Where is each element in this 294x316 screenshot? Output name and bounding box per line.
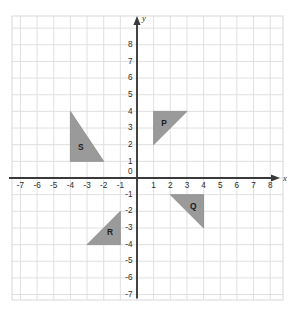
x-tick-label: -4 bbox=[67, 181, 75, 190]
x-tick-label: 2 bbox=[168, 181, 173, 190]
shape-label-q: Q bbox=[190, 201, 197, 211]
y-tick-label: 3 bbox=[128, 123, 133, 132]
coordinate-plane-figure: -7-6-5-4-3-2-112345678 -7-6-5-4-3-2-1123… bbox=[0, 0, 294, 316]
x-tick-label: 6 bbox=[235, 181, 240, 190]
y-tick-label: 2 bbox=[128, 140, 133, 149]
x-tick-label: -3 bbox=[83, 181, 91, 190]
grid-frame-border bbox=[12, 16, 283, 300]
y-tick-label: -2 bbox=[125, 206, 133, 215]
x-axis-label: x bbox=[282, 173, 287, 183]
y-axis-arrowhead-icon bbox=[133, 16, 140, 25]
y-tick-label: 8 bbox=[128, 40, 133, 49]
y-tick-label: -1 bbox=[125, 190, 133, 199]
origin-label: 0 bbox=[128, 167, 133, 176]
y-tick-label: -3 bbox=[125, 223, 133, 232]
x-tick-label: 7 bbox=[251, 181, 256, 190]
shape-label-s: S bbox=[78, 142, 84, 152]
y-tick-label: -7 bbox=[125, 290, 133, 299]
y-axis-label: y bbox=[141, 13, 146, 23]
shape-label-r: R bbox=[107, 227, 113, 237]
y-tick-label: 1 bbox=[128, 157, 133, 166]
y-tick-label: 5 bbox=[128, 90, 133, 99]
x-axis-tick-labels: -7-6-5-4-3-2-112345678 bbox=[17, 181, 273, 190]
x-tick-label: -7 bbox=[17, 181, 25, 190]
axes-group bbox=[9, 16, 280, 299]
x-tick-label: 8 bbox=[268, 181, 273, 190]
x-tick-label: 4 bbox=[201, 181, 206, 190]
x-tick-label: -1 bbox=[117, 181, 125, 190]
x-tick-label: -2 bbox=[100, 181, 108, 190]
coordinate-plane-svg: -7-6-5-4-3-2-112345678 -7-6-5-4-3-2-1123… bbox=[0, 0, 294, 316]
y-tick-label: -6 bbox=[125, 273, 133, 282]
x-tick-label: 3 bbox=[185, 181, 190, 190]
grid-major-lines bbox=[12, 16, 283, 300]
y-tick-label: -4 bbox=[125, 240, 133, 249]
shape-label-p: P bbox=[161, 118, 167, 128]
x-tick-label: 1 bbox=[151, 181, 156, 190]
x-tick-label: -5 bbox=[50, 181, 58, 190]
y-tick-label: 4 bbox=[128, 107, 133, 116]
y-tick-label: -5 bbox=[125, 256, 133, 265]
y-axis-tick-labels: -7-6-5-4-3-2-1123456780 bbox=[125, 40, 133, 299]
y-tick-label: 7 bbox=[128, 57, 133, 66]
x-tick-label: 5 bbox=[218, 181, 223, 190]
x-tick-label: -6 bbox=[33, 181, 41, 190]
y-tick-label: 6 bbox=[128, 73, 133, 82]
